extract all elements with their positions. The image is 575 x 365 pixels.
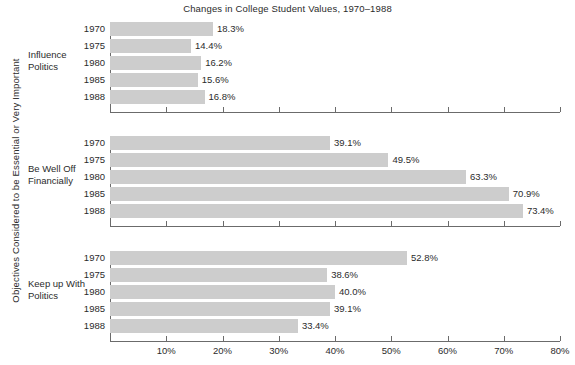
bar-row[interactable]: 198539.1% bbox=[110, 302, 560, 316]
bar-row[interactable]: 197039.1% bbox=[110, 136, 560, 150]
x-axis-tick bbox=[391, 336, 392, 341]
bar-group-panel: Be Well OffFinancially197039.1%197549.5%… bbox=[0, 136, 575, 246]
bar[interactable] bbox=[110, 153, 388, 167]
bar[interactable] bbox=[110, 73, 198, 87]
bar[interactable] bbox=[110, 170, 466, 184]
x-axis-tick bbox=[279, 336, 280, 341]
bar-category-label: 1985 bbox=[84, 188, 105, 200]
x-axis-tick-label: 20% bbox=[213, 345, 232, 356]
x-axis-tick bbox=[391, 107, 392, 112]
bar-row[interactable]: 197549.5% bbox=[110, 153, 560, 167]
bar-category-label: 1988 bbox=[84, 91, 105, 103]
x-axis-tick-label: 80% bbox=[550, 345, 569, 356]
plot-area: 197052.8%197538.6%198040.0%198539.1%1988… bbox=[110, 251, 560, 359]
bar[interactable] bbox=[110, 187, 509, 201]
bar-value-label: 70.9% bbox=[513, 188, 540, 200]
x-axis-tick bbox=[504, 221, 505, 226]
x-axis-tick-label: 30% bbox=[269, 345, 288, 356]
bar-group-panel: InfluencePolitics197018.3%197514.4%19801… bbox=[0, 22, 575, 132]
bar-category-label: 1970 bbox=[84, 137, 105, 149]
bar-value-label: 15.6% bbox=[202, 74, 229, 86]
bar-category-label: 1970 bbox=[84, 252, 105, 264]
bar[interactable] bbox=[110, 136, 330, 150]
bar[interactable] bbox=[110, 22, 213, 36]
x-axis-tick bbox=[560, 336, 561, 341]
bar[interactable] bbox=[110, 39, 191, 53]
bar-category-label: 1985 bbox=[84, 74, 105, 86]
bar-row[interactable]: 197052.8% bbox=[110, 251, 560, 265]
bar-category-label: 1975 bbox=[84, 269, 105, 281]
bar-group-label: Keep up WithPolitics bbox=[28, 278, 85, 301]
bar-value-label: 16.2% bbox=[205, 57, 232, 69]
x-axis-tick bbox=[110, 221, 111, 226]
bar-row[interactable]: 197514.4% bbox=[110, 39, 560, 53]
x-axis-tick bbox=[110, 336, 111, 341]
bar-group-panel: Keep up WithPolitics197052.8%197538.6%19… bbox=[0, 251, 575, 361]
bar-value-label: 39.1% bbox=[334, 303, 361, 315]
bar-category-label: 1980 bbox=[84, 171, 105, 183]
bar-group-label-line: Be Well Off bbox=[28, 163, 76, 175]
x-axis-tick bbox=[560, 107, 561, 112]
bar-row[interactable]: 198063.3% bbox=[110, 170, 560, 184]
bar[interactable] bbox=[110, 285, 335, 299]
bar-category-label: 1988 bbox=[84, 320, 105, 332]
bar[interactable] bbox=[110, 204, 523, 218]
bar-row[interactable]: 198816.8% bbox=[110, 90, 560, 104]
plot-area: 197039.1%197549.5%198063.3%198570.9%1988… bbox=[110, 136, 560, 244]
x-axis-tick bbox=[223, 336, 224, 341]
x-axis-line bbox=[110, 341, 560, 342]
x-axis-tick bbox=[560, 221, 561, 226]
bar[interactable] bbox=[110, 268, 327, 282]
bar-category-label: 1975 bbox=[84, 40, 105, 52]
x-axis-tick bbox=[504, 107, 505, 112]
bar-group-label-line: Financially bbox=[28, 175, 76, 187]
chart-title: Changes in College Student Values, 1970–… bbox=[0, 3, 575, 14]
bar-value-label: 49.5% bbox=[392, 154, 419, 166]
x-axis-tick-label: 10% bbox=[157, 345, 176, 356]
bar-value-label: 38.6% bbox=[331, 269, 358, 281]
bar-value-label: 39.1% bbox=[334, 137, 361, 149]
bar-value-label: 40.0% bbox=[339, 286, 366, 298]
bar-row[interactable]: 198040.0% bbox=[110, 285, 560, 299]
bar-row[interactable]: 198016.2% bbox=[110, 56, 560, 70]
chart-figure: Changes in College Student Values, 1970–… bbox=[0, 0, 575, 365]
bar-row[interactable]: 198833.4% bbox=[110, 319, 560, 333]
bar-group-label-line: Influence bbox=[28, 49, 67, 61]
x-axis-tick bbox=[448, 107, 449, 112]
bar-group-label: InfluencePolitics bbox=[28, 49, 67, 72]
x-axis-tick bbox=[223, 221, 224, 226]
x-axis-tick-label: 50% bbox=[382, 345, 401, 356]
bar-value-label: 33.4% bbox=[302, 320, 329, 332]
bar-group-label-line: Keep up With bbox=[28, 278, 85, 290]
bar[interactable] bbox=[110, 56, 201, 70]
x-axis-tick bbox=[448, 336, 449, 341]
bar[interactable] bbox=[110, 90, 205, 104]
bar[interactable] bbox=[110, 251, 407, 265]
bar-row[interactable]: 197538.6% bbox=[110, 268, 560, 282]
bar-row[interactable]: 198873.4% bbox=[110, 204, 560, 218]
x-axis-tick-label: 40% bbox=[325, 345, 344, 356]
bar-group-label-line: Politics bbox=[28, 61, 67, 73]
x-axis-tick bbox=[166, 336, 167, 341]
x-axis-tick bbox=[110, 107, 111, 112]
bar-value-label: 63.3% bbox=[470, 171, 497, 183]
bar-category-label: 1980 bbox=[84, 286, 105, 298]
bar-row[interactable]: 198570.9% bbox=[110, 187, 560, 201]
bar-value-label: 18.3% bbox=[217, 23, 244, 35]
x-axis-tick bbox=[504, 336, 505, 341]
bar[interactable] bbox=[110, 302, 330, 316]
bar-category-label: 1970 bbox=[84, 23, 105, 35]
x-axis-tick bbox=[223, 107, 224, 112]
x-axis-line bbox=[110, 112, 560, 113]
bar-value-label: 52.8% bbox=[411, 252, 438, 264]
x-axis-tick bbox=[279, 221, 280, 226]
bar[interactable] bbox=[110, 319, 298, 333]
bar-row[interactable]: 198515.6% bbox=[110, 73, 560, 87]
x-axis-tick bbox=[166, 221, 167, 226]
x-axis-line bbox=[110, 226, 560, 227]
bar-category-label: 1988 bbox=[84, 205, 105, 217]
bar-value-label: 16.8% bbox=[209, 91, 236, 103]
bar-row[interactable]: 197018.3% bbox=[110, 22, 560, 36]
bar-value-label: 73.4% bbox=[527, 205, 554, 217]
bar-category-label: 1980 bbox=[84, 57, 105, 69]
